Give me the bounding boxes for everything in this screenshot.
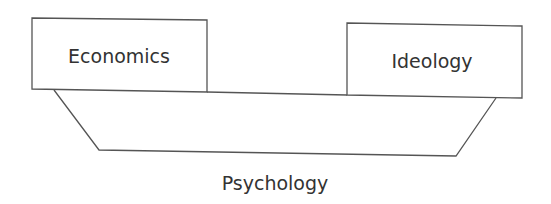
- node-economics: Economics: [32, 18, 207, 92]
- psychology-label: Psychology: [222, 172, 329, 194]
- diagram-canvas: Economics Ideology Psychology: [0, 0, 551, 204]
- economics-label: Economics: [68, 45, 170, 67]
- connector-line: [207, 92, 347, 95]
- node-ideology: Ideology: [347, 23, 522, 98]
- ideology-label: Ideology: [391, 50, 472, 72]
- psychology-base-shape: [54, 90, 496, 156]
